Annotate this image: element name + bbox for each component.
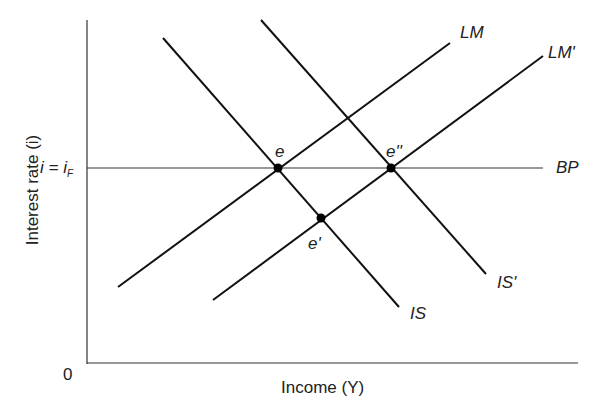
label-bp: BP: [556, 158, 579, 177]
diagram-canvas: LM LM' BP IS' IS e e'' e' i = iF 0 Incom…: [0, 0, 598, 413]
label-e: e: [275, 142, 284, 161]
point-e-prime: [317, 214, 326, 223]
x-axis-title: Income (Y): [281, 378, 364, 397]
label-i-eq-if: i = iF: [40, 158, 74, 179]
label-i-eq: i = i: [40, 158, 68, 177]
label-e-prime: e': [308, 234, 321, 253]
label-i-sub-f: F: [67, 168, 74, 179]
point-e: [274, 164, 283, 173]
is-curve: [163, 38, 399, 307]
islm-bp-diagram: LM LM' BP IS' IS e e'' e' i = iF 0 Incom…: [0, 0, 598, 413]
lm-prime-curve: [213, 56, 543, 300]
label-lm-prime: LM': [548, 43, 576, 62]
point-e-double-prime: [387, 164, 396, 173]
y-axis-title: Interest rate (i): [23, 135, 42, 246]
label-is: IS: [410, 304, 427, 323]
is-prime-curve: [261, 20, 486, 274]
origin-label: 0: [63, 365, 72, 384]
label-e-double-prime: e'': [386, 142, 403, 161]
label-lm: LM: [460, 23, 484, 42]
lm-curve: [118, 43, 450, 287]
label-is-prime: IS': [497, 273, 517, 292]
